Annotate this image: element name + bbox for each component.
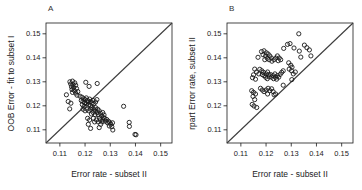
- data-point: [256, 55, 260, 59]
- y-tick-label: 0.14: [26, 53, 41, 62]
- x-tick-label: 0.14: [309, 149, 324, 158]
- x-tick-label: 0.12: [78, 149, 93, 158]
- data-point: [87, 84, 91, 88]
- y-tick-label: 0.11: [207, 125, 221, 134]
- identity-diagonal-line: [227, 23, 353, 143]
- y-tick-label: 0.11: [26, 125, 40, 134]
- y-tick-label: 0.12: [26, 101, 41, 110]
- data-point: [309, 54, 313, 58]
- panel-a-y-axis-title: OOB Error - fit to subset I: [6, 4, 17, 164]
- data-point: [282, 46, 286, 50]
- panel-b-letter: B: [229, 4, 235, 13]
- data-point: [122, 104, 126, 108]
- data-point: [281, 83, 285, 87]
- x-tick-label: 0.11: [53, 149, 67, 158]
- panel-b: 0.110.120.130.140.150.110.120.130.140.15…: [181, 0, 362, 190]
- y-tick-label: 0.13: [207, 77, 222, 86]
- data-point: [68, 107, 72, 111]
- x-tick-label: 0.15: [334, 149, 349, 158]
- y-tick-label: 0.13: [26, 77, 41, 86]
- data-point: [297, 49, 301, 53]
- x-tick-label: 0.14: [128, 149, 143, 158]
- figure-canvas: 0.110.120.130.140.150.110.120.130.140.15…: [0, 0, 362, 190]
- data-point: [302, 43, 306, 47]
- panel-a-x-axis-title: Error rate - subset II: [46, 169, 172, 179]
- x-tick-label: 0.12: [259, 149, 274, 158]
- data-point: [95, 81, 99, 85]
- y-tick-label: 0.14: [207, 53, 222, 62]
- panel-b-plot: 0.110.120.130.140.150.110.120.130.140.15: [181, 0, 362, 190]
- data-point: [86, 122, 90, 126]
- panel-b-x-axis-title: Error rate - subset II: [227, 169, 353, 179]
- data-point: [266, 92, 270, 96]
- data-point: [292, 46, 296, 50]
- data-point: [299, 55, 303, 59]
- data-point: [84, 80, 88, 84]
- x-tick-label: 0.15: [153, 149, 168, 158]
- panel-a-letter: A: [48, 4, 54, 13]
- data-point: [288, 42, 292, 46]
- y-tick-label: 0.12: [207, 101, 222, 110]
- x-tick-label: 0.13: [103, 149, 118, 158]
- data-point: [89, 126, 93, 130]
- x-tick-label: 0.11: [234, 149, 248, 158]
- data-point: [64, 93, 68, 97]
- y-tick-label: 0.15: [26, 29, 41, 38]
- data-point: [297, 32, 301, 36]
- panel-b-y-axis-title: rpart Error rate, subset II: [187, 4, 198, 164]
- panel-a-plot: 0.110.120.130.140.150.110.120.130.140.15: [0, 0, 181, 190]
- x-tick-label: 0.13: [284, 149, 299, 158]
- panel-a: 0.110.120.130.140.150.110.120.130.140.15…: [0, 0, 181, 190]
- y-tick-label: 0.15: [207, 29, 222, 38]
